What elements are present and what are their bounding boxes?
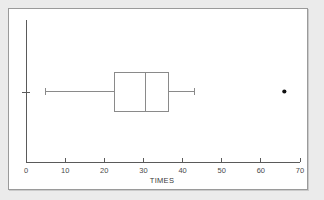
boxplot-svg: 010203040506070 TIMES	[0, 0, 324, 200]
x-tick-label-40: 40	[178, 166, 186, 175]
x-tick-label-50: 50	[218, 166, 226, 175]
x-tick-label-70: 70	[296, 166, 304, 175]
outlier-point	[282, 89, 286, 93]
box-rect	[114, 72, 169, 111]
boxplot-plot-area: 010203040506070 TIMES	[0, 0, 324, 200]
x-tick-label-60: 60	[257, 166, 265, 175]
x-axis-ticks	[26, 158, 300, 162]
box-whisker-group	[46, 72, 195, 111]
x-tick-label-20: 20	[100, 166, 108, 175]
x-axis-tick-labels: 010203040506070	[24, 166, 304, 175]
figure-root: 010203040506070 TIMES	[0, 0, 324, 200]
x-tick-label-0: 0	[24, 166, 28, 175]
x-axis-title: TIMES	[150, 176, 174, 185]
outlier-group	[282, 89, 286, 93]
x-tick-label-10: 10	[61, 166, 69, 175]
x-tick-label-30: 30	[139, 166, 147, 175]
